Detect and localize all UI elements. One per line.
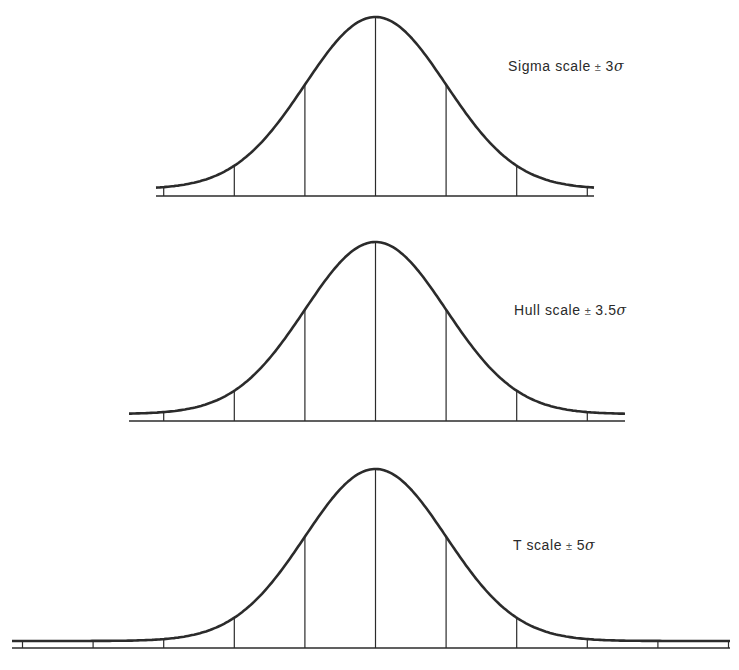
sigma-symbol: σ xyxy=(585,537,595,553)
hull-scale-label: Hull scale±3.5σ xyxy=(514,302,627,318)
scale-value: 3 xyxy=(606,58,614,74)
plus-minus: ± xyxy=(585,305,592,317)
sigma-scale-label: Sigma scale±3σ xyxy=(508,58,624,74)
t-scale-label: T scale±5σ xyxy=(513,537,595,553)
panel-t-scale xyxy=(12,469,730,648)
normal-curve xyxy=(12,469,730,641)
scale-name: T scale xyxy=(513,537,562,553)
scale-name: Hull scale xyxy=(514,302,581,318)
panel-sigma-scale xyxy=(156,17,594,196)
scale-name: Sigma scale xyxy=(508,58,591,74)
plus-minus: ± xyxy=(595,61,602,73)
sigma-symbol: σ xyxy=(617,302,627,318)
panel-hull-scale xyxy=(129,242,625,421)
normal-curve xyxy=(129,242,625,414)
plus-minus: ± xyxy=(566,540,573,552)
normal-curves-diagram xyxy=(0,0,739,670)
sigma-symbol: σ xyxy=(614,58,624,74)
scale-value: 3.5 xyxy=(595,302,616,318)
scale-value: 5 xyxy=(577,537,585,553)
